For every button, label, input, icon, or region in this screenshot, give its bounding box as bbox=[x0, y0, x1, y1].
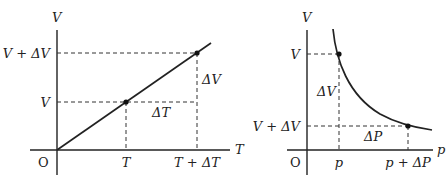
left-y-tick-v: V bbox=[41, 95, 52, 110]
right-delta-p-label: ΔP bbox=[363, 129, 382, 144]
right-y-tick-v: V bbox=[291, 47, 302, 62]
right-isotherm-curve bbox=[333, 29, 432, 130]
left-delta-t-label: ΔT bbox=[151, 105, 171, 120]
left-diagram: V T O V + ΔV V T T + ΔT ΔV ΔT bbox=[3, 10, 245, 175]
diagram-stage: V T O V + ΔV V T T + ΔT ΔV ΔT bbox=[0, 0, 447, 186]
left-x-axis-label: T bbox=[235, 142, 245, 157]
right-y-tick-v-plus-dv: V + ΔV bbox=[253, 119, 302, 134]
right-x-tick-p: p bbox=[335, 155, 344, 170]
diagrams-canvas: V T O V + ΔV V T T + ΔT ΔV ΔT bbox=[0, 0, 447, 186]
right-point-1 bbox=[336, 51, 341, 56]
left-x-tick-t-plus-dt: T + ΔT bbox=[174, 155, 221, 170]
left-y-tick-v-plus-dv: V + ΔV bbox=[3, 46, 52, 61]
right-diagram: V p O V V + ΔV p p + ΔP ΔV ΔP bbox=[253, 10, 446, 175]
left-origin-label: O bbox=[38, 155, 49, 170]
right-point-2 bbox=[405, 123, 410, 128]
left-point-1 bbox=[123, 99, 128, 104]
left-y-axis-label: V bbox=[52, 10, 63, 25]
left-proportional-line bbox=[57, 43, 211, 150]
right-y-axis-label: V bbox=[302, 10, 313, 25]
left-point-2 bbox=[194, 50, 199, 55]
right-origin-label: O bbox=[290, 155, 301, 170]
right-delta-v-label: ΔV bbox=[316, 84, 337, 99]
left-delta-v-label: ΔV bbox=[201, 72, 222, 87]
left-x-tick-t: T bbox=[122, 155, 132, 170]
right-x-tick-p-plus-dp: p + ΔP bbox=[385, 155, 431, 170]
right-x-axis-label: p bbox=[437, 142, 446, 157]
